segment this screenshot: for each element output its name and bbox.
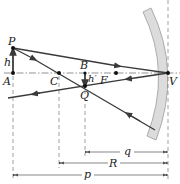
label-v: V bbox=[169, 75, 178, 88]
reference-lines bbox=[13, 0, 168, 180]
label-p: P bbox=[7, 35, 16, 48]
label-b: B bbox=[79, 59, 88, 72]
label-c: C bbox=[50, 75, 59, 88]
label-f: F bbox=[99, 74, 108, 87]
label-r-distance: R bbox=[108, 157, 117, 170]
mirror-ray-diagram: P A C B Q F V h h′ q R p bbox=[0, 0, 180, 184]
label-object-height: h bbox=[4, 56, 11, 69]
label-image-height: h′ bbox=[88, 73, 97, 84]
label-p-distance: p bbox=[84, 168, 91, 181]
label-q-distance: q bbox=[124, 145, 131, 158]
point-f bbox=[114, 71, 118, 75]
point-a bbox=[11, 71, 15, 75]
point-q bbox=[83, 84, 87, 88]
label-a: A bbox=[2, 75, 11, 88]
label-q: Q bbox=[80, 89, 89, 102]
